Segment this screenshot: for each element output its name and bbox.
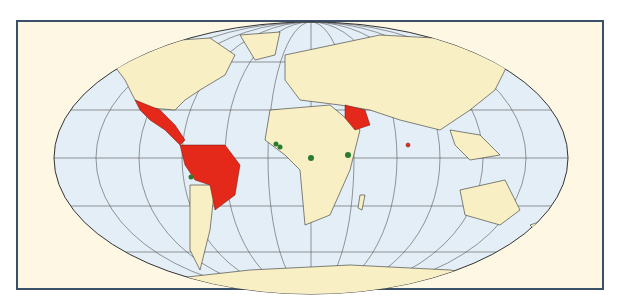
- sri-lanka: [406, 143, 410, 147]
- marker-west-africa-1: [274, 142, 279, 147]
- marker-peru: [189, 175, 194, 180]
- marker-central-africa: [308, 155, 314, 161]
- marker-east-africa: [345, 152, 351, 158]
- world-map: [0, 0, 623, 305]
- marker-west-africa-2: [278, 145, 283, 150]
